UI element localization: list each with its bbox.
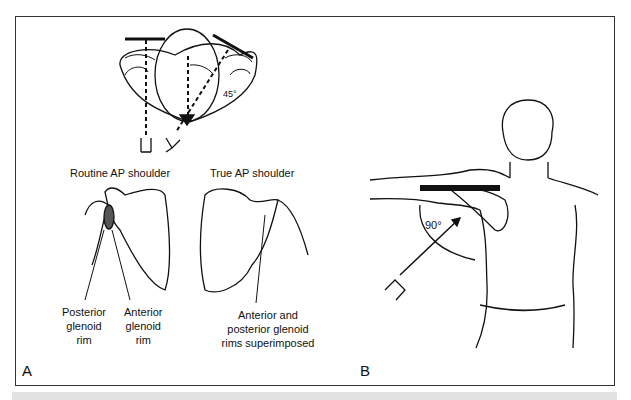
true-ap-scapula [200,189,308,303]
routine-ap-scapula [85,188,170,300]
panel-letter-b: B [360,362,370,379]
angle-label-45: 45° [223,87,237,101]
patient-figure [370,100,598,348]
label-rims-superimposed: Anterior and posterior glenoid rims supe… [214,308,322,350]
view-title-routine: Routine AP shoulder [70,166,170,180]
view-title-true: True AP shoulder [210,166,294,180]
label-posterior-glenoid-rim: Posterior glenoid rim [62,305,106,347]
label-anterior-glenoid-rim: Anterior glenoid rim [124,305,163,347]
panel-letter-a: A [22,362,32,379]
angle-label-90: 90° [425,218,442,232]
